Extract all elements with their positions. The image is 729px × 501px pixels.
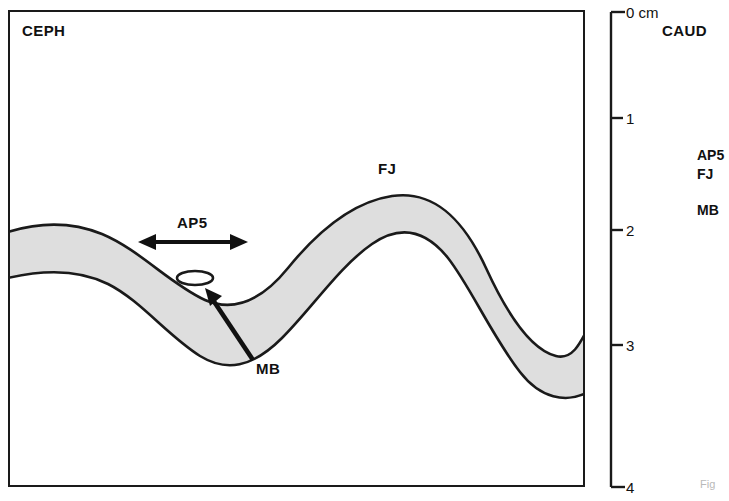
label-ap5: AP5 xyxy=(177,214,207,231)
legend-entry-ap5: AP5 xyxy=(697,146,729,165)
label-mb: MB xyxy=(256,360,280,377)
ruler-tick-label-0: 0 cm xyxy=(626,4,659,21)
legend-spacer xyxy=(697,184,729,201)
ruler-tick-label-3: 3 xyxy=(626,337,634,354)
figure-canvas: CEPH CAUD FJ AP5 MB 0 cm 1 2 3 4 AP5 FJ … xyxy=(0,0,729,501)
ruler-tick-label-4: 4 xyxy=(626,479,634,496)
ruler-tick-label-2: 2 xyxy=(626,222,634,239)
cm-ruler: 0 cm 1 2 3 4 xyxy=(600,0,670,501)
tissue-band xyxy=(8,195,588,398)
orientation-label-cephalad: CEPH xyxy=(22,22,65,39)
mb-oval-marker xyxy=(177,271,213,285)
legend-cropped: AP5 FJ MB xyxy=(697,146,729,220)
legend-entry-fj: FJ xyxy=(697,165,729,184)
ap5-measure-arrow xyxy=(138,234,248,250)
figure-caption-cropped: Fig xyxy=(700,478,729,490)
legend-entry-mb: MB xyxy=(697,201,729,220)
label-fj: FJ xyxy=(378,160,396,177)
ruler-tick-label-1: 1 xyxy=(626,110,634,127)
